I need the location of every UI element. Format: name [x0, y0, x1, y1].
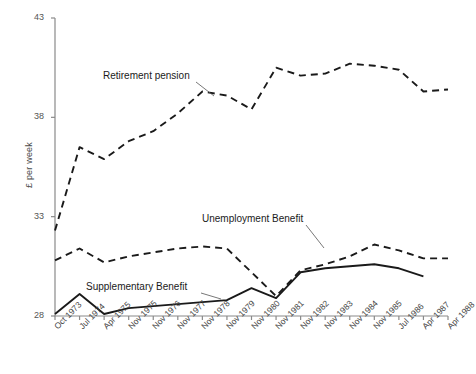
series-annotation-label: Unemployment Benefit — [202, 213, 303, 224]
axis-lines — [55, 18, 448, 316]
series-annotation-label: Supplementary Benefit — [86, 281, 187, 292]
annotation-leader-line — [201, 293, 221, 299]
y-tick-label: 33 — [18, 211, 44, 221]
series-line-retirement-pension — [55, 64, 448, 231]
annotation-leader-line — [306, 225, 324, 248]
y-tick-label: 38 — [18, 111, 44, 121]
y-tick-label: 43 — [18, 12, 44, 22]
y-tick-label: 28 — [18, 310, 44, 320]
series-annotation-label: Retirement pension — [103, 70, 190, 81]
